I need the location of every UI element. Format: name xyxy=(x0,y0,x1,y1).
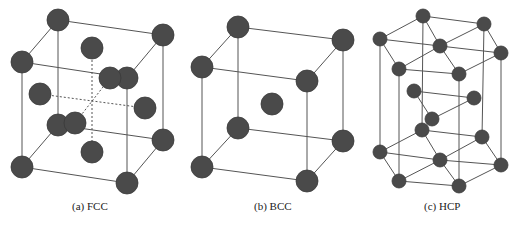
atom xyxy=(81,141,103,163)
atom xyxy=(152,24,174,46)
atom xyxy=(407,84,421,98)
atom xyxy=(467,91,481,105)
bcc-unit-cell xyxy=(191,16,354,192)
atom xyxy=(332,29,354,51)
atom xyxy=(47,9,69,31)
atom xyxy=(11,51,33,73)
lattice-edge xyxy=(422,130,482,137)
atom xyxy=(392,174,406,188)
atom xyxy=(415,123,429,137)
lattice-edge xyxy=(202,167,307,181)
lattice-edge xyxy=(414,91,474,98)
atom xyxy=(227,16,249,38)
fcc-unit-cell xyxy=(11,9,174,194)
atom xyxy=(116,172,138,194)
atom xyxy=(475,130,489,144)
atom xyxy=(494,46,508,60)
atom xyxy=(296,70,318,92)
atom xyxy=(332,130,354,152)
lattice-edge xyxy=(422,16,423,130)
atom xyxy=(373,145,387,159)
lattice-edge xyxy=(238,27,343,40)
atom xyxy=(29,83,51,105)
atom xyxy=(99,67,121,89)
atom xyxy=(261,93,283,115)
atom xyxy=(152,129,174,151)
lattice-edge xyxy=(399,69,459,74)
atom xyxy=(81,37,103,59)
lattice-edge xyxy=(440,46,501,53)
atom xyxy=(433,153,447,167)
lattice-edge xyxy=(58,20,163,35)
atom xyxy=(425,112,439,126)
hcp-unit-cell xyxy=(373,9,508,193)
atom xyxy=(477,17,491,31)
crystal-structures-figure xyxy=(0,0,520,230)
hcp-caption: (c) HCP xyxy=(424,200,460,212)
atom xyxy=(11,156,33,178)
atom xyxy=(227,117,249,139)
atom xyxy=(296,170,318,192)
lattice-edge xyxy=(423,16,484,24)
lattice-edge xyxy=(238,128,343,141)
lattice-edge xyxy=(380,39,440,46)
atom xyxy=(392,62,406,76)
atom xyxy=(416,9,430,23)
lattice-edge xyxy=(22,167,127,183)
lattice-edge xyxy=(399,181,459,186)
atom xyxy=(191,56,213,78)
atom xyxy=(452,67,466,81)
lattice-edge xyxy=(482,24,484,137)
lattice-edge xyxy=(380,152,440,160)
atom xyxy=(433,39,447,53)
atom xyxy=(494,158,508,172)
fcc-caption: (a) FCC xyxy=(72,200,108,212)
atom xyxy=(373,32,387,46)
bcc-caption: (b) BCC xyxy=(254,200,292,212)
lattice-edge xyxy=(440,160,501,165)
atom xyxy=(452,179,466,193)
atom xyxy=(191,156,213,178)
atom xyxy=(64,112,86,134)
atom xyxy=(134,97,156,119)
lattice-edge xyxy=(202,67,307,81)
